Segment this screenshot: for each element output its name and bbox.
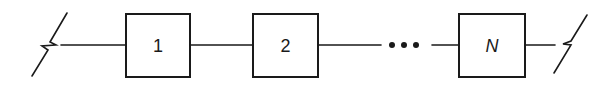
series-chain-diagram: 1 2 N — [0, 0, 615, 85]
block-1-label: 1 — [153, 36, 163, 56]
block-2-label: 2 — [280, 36, 290, 56]
block-n-label: N — [486, 36, 500, 56]
ellipsis-dots — [389, 42, 419, 48]
right-break-line-icon — [554, 15, 587, 73]
